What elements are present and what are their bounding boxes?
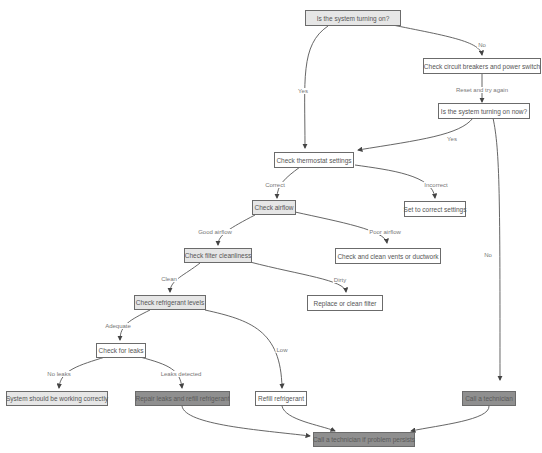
edge-label-good-airflow: Good airflow xyxy=(197,229,233,235)
edge-label-now-yes: Yes xyxy=(446,136,458,142)
edge-label-low: Low xyxy=(275,347,288,353)
edge-label-reset: Reset and try again xyxy=(455,87,509,93)
node-airflow: Check airflow xyxy=(252,200,296,215)
edge-label-clean: Clean xyxy=(160,276,178,282)
edge-label-correct: Correct xyxy=(264,182,286,188)
edge-label-poor-airflow: Poor airflow xyxy=(368,229,402,235)
node-refill: Refill refrigerant xyxy=(255,391,307,406)
edge-label-start-no: No xyxy=(477,42,487,48)
edge-label-leaks-detected: Leaks detected xyxy=(160,371,203,377)
edge-label-no-leaks: No leaks xyxy=(46,371,71,377)
node-turning-on-now: Is the system turning on now? xyxy=(438,103,530,119)
node-thermostat: Check thermostat settings xyxy=(274,152,354,168)
edge-label-dirty: Dirty xyxy=(333,277,347,283)
edge-label-adequate: Adequate xyxy=(104,323,132,329)
node-refrigerant: Check refrigerant levels xyxy=(134,295,206,310)
node-call-tech: Call a technician xyxy=(462,391,516,406)
node-repair-leaks: Repair leaks and refill refrigerant xyxy=(135,391,230,406)
node-call-tech-persist: Call a technician if problem persists xyxy=(313,432,415,447)
node-working: System should be working correctly xyxy=(6,391,108,406)
node-set-correct: Set to correct settings xyxy=(404,201,466,217)
edge-label-start-yes: Yes xyxy=(297,88,309,94)
node-replace-filter: Replace or clean filter xyxy=(307,295,383,311)
flowchart-canvas: Is the system turning on? Check circuit … xyxy=(0,0,542,453)
node-clean-vents: Check and clean vents or ductwork xyxy=(335,248,441,264)
node-check-breakers: Check circuit breakers and power switch xyxy=(423,58,541,74)
node-leaks: Check for leaks xyxy=(96,343,146,358)
edge-label-incorrect: Incorrect xyxy=(423,182,448,188)
node-filter: Check filter cleanliness xyxy=(184,248,252,263)
node-start: Is the system turning on? xyxy=(305,10,401,26)
edge-label-now-no: No xyxy=(483,252,493,258)
